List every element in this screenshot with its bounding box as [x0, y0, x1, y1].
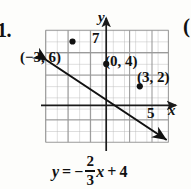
x-axis-label: x [168, 103, 176, 118]
y-axis-label: y [98, 10, 105, 25]
graph-plot [45, 29, 169, 146]
fraction-denominator: 3 [86, 172, 96, 188]
point-label-neg3-6: (−3, 6) [20, 50, 61, 65]
point-label-3-2: (3, 2) [137, 70, 170, 85]
point-label-0-4: (0, 4) [105, 54, 138, 69]
problem-number: 1. [0, 20, 11, 40]
worksheet-page: 1. ( [0, 0, 191, 189]
equation-fraction: 2 3 [85, 154, 95, 188]
equation-plus: + [107, 164, 116, 180]
equation-variable: x [96, 164, 104, 180]
equation-sign: − [74, 164, 83, 180]
fraction-numerator: 2 [86, 154, 96, 170]
y-tick-label-7: 7 [92, 31, 100, 46]
next-problem-partial-paren: ( [183, 16, 190, 37]
x-tick-label-5: 5 [147, 106, 155, 121]
equation-equals: = [62, 164, 71, 180]
equation-constant: 4 [119, 164, 127, 180]
point-neg3-6 [69, 38, 75, 44]
equation: y = − 2 3 x + 4 [52, 155, 127, 189]
equation-lhs: y [52, 164, 59, 180]
coordinate-graph [45, 29, 169, 146]
